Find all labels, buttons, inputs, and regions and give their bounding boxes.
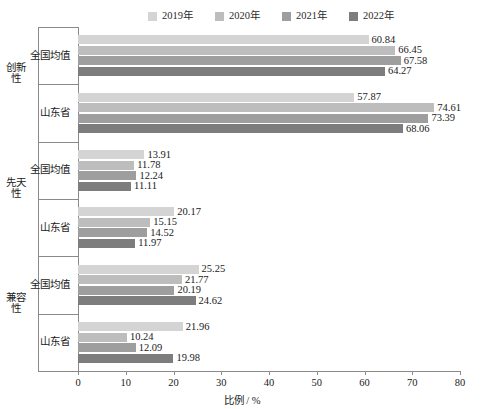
bar-row: 20.17 (78, 207, 460, 216)
subgroup-label: 全国均值 (30, 51, 70, 62)
legend-item-2022年[interactable]: 2022年 (349, 11, 394, 22)
bar-value-label: 64.27 (385, 66, 412, 77)
bar-2020年[interactable] (78, 46, 395, 55)
bar-2020年[interactable] (78, 333, 127, 342)
bar-2021年[interactable] (78, 286, 174, 295)
legend-label: 2019年 (162, 11, 193, 22)
bar-row: 11.78 (78, 161, 460, 170)
legend-swatch-icon (215, 12, 224, 21)
bar-value-label: 24.62 (196, 296, 223, 307)
bar-row: 66.45 (78, 46, 460, 55)
bar-2022年[interactable] (78, 296, 196, 305)
bar-row: 73.39 (78, 114, 460, 123)
legend-swatch-icon (148, 12, 157, 21)
bar-2019年[interactable] (78, 322, 183, 331)
bar-2019年[interactable] (78, 150, 144, 159)
bar-2021年[interactable] (78, 171, 136, 180)
bar-row: 12.09 (78, 343, 460, 352)
bar-value-label: 19.98 (173, 353, 200, 364)
bar-row: 20.19 (78, 286, 460, 295)
x-tick (126, 371, 127, 375)
legend-item-2019年[interactable]: 2019年 (148, 11, 193, 22)
x-tick-label: 60 (359, 378, 370, 389)
x-tick (174, 371, 175, 375)
subgroup-label: 全国均值 (30, 280, 70, 291)
bar-row: 68.06 (78, 124, 460, 133)
bar-value-label: 12.09 (136, 342, 163, 353)
bar-row: 11.97 (78, 239, 460, 248)
x-axis-title: 比例 / % (0, 392, 484, 407)
legend-swatch-icon (282, 12, 291, 21)
bar-chart: 2019年2020年2021年2022年 01020304050607080 6… (0, 0, 484, 409)
bar-2022年[interactable] (78, 354, 173, 363)
legend-item-2021年[interactable]: 2021年 (282, 11, 327, 22)
x-tick (317, 371, 318, 375)
group-label: 先天性 (6, 177, 26, 199)
x-tick (365, 371, 366, 375)
legend-label: 2021年 (296, 11, 327, 22)
bar-row: 24.62 (78, 296, 460, 305)
bar-2019年[interactable] (78, 265, 199, 274)
bar-row: 13.91 (78, 150, 460, 159)
bar-value-label: 57.87 (354, 92, 381, 103)
bar-row: 67.58 (78, 56, 460, 65)
bar-2022年[interactable] (78, 67, 385, 76)
bar-row: 10.24 (78, 333, 460, 342)
bar-2022年[interactable] (78, 124, 403, 133)
x-tick-label: 70 (407, 378, 418, 389)
group-label: 兼容性 (6, 292, 26, 314)
x-tick-label: 20 (168, 378, 179, 389)
bar-row: 14.52 (78, 228, 460, 237)
group-label: 创新性 (6, 62, 26, 84)
bar-2020年[interactable] (78, 218, 150, 227)
subgroup-label: 全国均值 (30, 165, 70, 176)
bar-2021年[interactable] (78, 56, 401, 65)
bar-row: 64.27 (78, 67, 460, 76)
bar-2021年[interactable] (78, 343, 136, 352)
bar-row: 74.61 (78, 103, 460, 112)
bar-2022年[interactable] (78, 182, 131, 191)
bar-value-label: 11.97 (135, 238, 161, 249)
bar-2019年[interactable] (78, 93, 354, 102)
x-tick-label: 30 (216, 378, 227, 389)
bar-row: 15.15 (78, 218, 460, 227)
bar-2019年[interactable] (78, 207, 174, 216)
bar-value-label: 60.84 (369, 35, 396, 46)
bar-row: 25.25 (78, 265, 460, 274)
group-separator (38, 256, 79, 257)
bar-row: 19.98 (78, 354, 460, 363)
subgroup-separator (38, 199, 79, 200)
x-tick-label: 80 (455, 378, 466, 389)
group-separator (38, 27, 79, 28)
x-tick-label: 10 (121, 378, 132, 389)
bar-2021年[interactable] (78, 114, 428, 123)
bar-2019年[interactable] (78, 35, 369, 44)
bar-value-label: 68.06 (403, 124, 430, 135)
bar-row: 57.87 (78, 93, 460, 102)
bar-2020年[interactable] (78, 103, 434, 112)
subgroup-label: 山东省 (40, 223, 70, 234)
bar-2020年[interactable] (78, 275, 182, 284)
subgroup-label: 山东省 (40, 108, 70, 119)
group-separator (38, 371, 79, 372)
legend-swatch-icon (349, 12, 358, 21)
bar-2022年[interactable] (78, 239, 135, 248)
subgroup-label: 山东省 (40, 337, 70, 348)
x-tick (221, 371, 222, 375)
bar-row: 21.77 (78, 275, 460, 284)
bar-row: 60.84 (78, 35, 460, 44)
subgroup-separator (38, 84, 79, 85)
bar-value-label: 20.19 (174, 285, 201, 296)
bar-2021年[interactable] (78, 228, 147, 237)
legend-item-2020年[interactable]: 2020年 (215, 11, 260, 22)
x-tick (412, 371, 413, 375)
bar-value-label: 11.11 (131, 181, 157, 192)
bar-2020年[interactable] (78, 161, 134, 170)
bar-row: 21.96 (78, 322, 460, 331)
legend-label: 2022年 (363, 11, 394, 22)
bar-value-label: 21.96 (183, 321, 210, 332)
x-tick-label: 40 (264, 378, 275, 389)
x-tick (269, 371, 270, 375)
bar-row: 11.11 (78, 182, 460, 191)
group-separator (38, 142, 79, 143)
